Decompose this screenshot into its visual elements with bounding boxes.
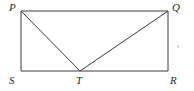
vertex-label-t: T <box>76 75 82 86</box>
geometry-figure: P Q R T S <box>0 0 194 91</box>
vertex-label-p: P <box>9 2 16 13</box>
vertex-label-s: S <box>9 75 15 86</box>
scan-artifact-speck <box>177 45 179 48</box>
vertex-label-r: R <box>170 75 177 86</box>
figure-canvas <box>0 0 194 91</box>
vertex-label-q: Q <box>172 2 180 13</box>
